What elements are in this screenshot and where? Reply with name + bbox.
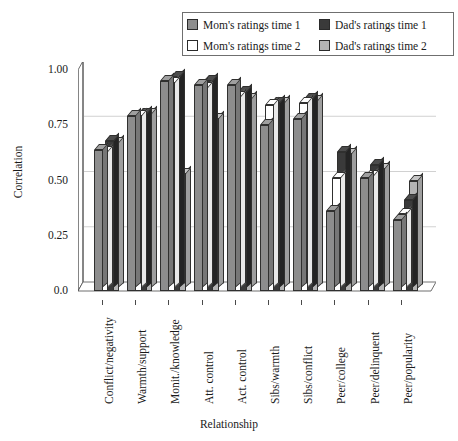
bar-side xyxy=(186,166,191,287)
bar-face xyxy=(227,85,236,291)
bar-face xyxy=(94,150,103,291)
bar xyxy=(127,116,136,291)
bar-side xyxy=(385,161,390,287)
bar-side xyxy=(313,91,318,287)
bar-side xyxy=(346,144,351,287)
bar-side xyxy=(407,205,412,287)
x-tick-mark xyxy=(135,300,136,305)
bar-side xyxy=(219,110,224,287)
bar-face xyxy=(127,116,136,291)
bar-side xyxy=(352,146,357,287)
bar-side xyxy=(213,73,218,287)
bar-side xyxy=(335,203,340,287)
x-tick-mark xyxy=(168,300,169,305)
x-tick-mark xyxy=(368,300,369,305)
bar xyxy=(360,178,369,291)
bar-side xyxy=(318,93,323,287)
bar-side xyxy=(302,110,307,287)
x-tick-label: Att. control xyxy=(203,351,215,404)
bar-side xyxy=(402,212,407,287)
bar-side xyxy=(247,84,252,287)
bar xyxy=(194,85,203,291)
bar-side xyxy=(136,108,141,287)
bar-side xyxy=(379,157,384,287)
bar-side xyxy=(269,117,274,287)
x-tick-mark xyxy=(334,300,335,305)
bar-side xyxy=(374,168,379,287)
bar-side xyxy=(208,79,213,287)
bar-face xyxy=(393,220,402,291)
x-tick-label: Sibs/warmth xyxy=(269,346,281,404)
x-tick-label: Sibs/conflict xyxy=(302,346,314,404)
bar-side xyxy=(152,106,157,287)
bar-face xyxy=(260,125,269,291)
bar-face xyxy=(293,119,302,291)
x-tick-label: Monit./knowledge xyxy=(169,319,181,404)
bar-side xyxy=(103,141,108,287)
bar-side xyxy=(236,77,241,287)
bar-side xyxy=(413,192,418,287)
x-tick-label: Act. control xyxy=(236,349,248,404)
bar-side xyxy=(169,73,174,287)
x-tick-label: Peer/college xyxy=(335,347,347,404)
x-tick-label: Warmth/support xyxy=(136,330,148,404)
bar-side xyxy=(108,144,113,287)
bar-face xyxy=(326,211,335,291)
bar-chart: Mom's ratings time 1 Dad's ratings time … xyxy=(0,0,458,441)
bar-side xyxy=(341,170,346,287)
bar xyxy=(260,125,269,291)
bar-side xyxy=(142,108,147,287)
x-tick-label: Conflict/negativity xyxy=(103,317,115,404)
bar-side xyxy=(252,91,257,287)
bar-side xyxy=(274,97,279,287)
x-tick-label: Peer/delinquent xyxy=(369,332,381,404)
bar-side xyxy=(285,95,290,287)
bar xyxy=(293,119,302,291)
bar-side xyxy=(119,135,124,287)
bar-side xyxy=(418,172,423,287)
bar-face xyxy=(160,81,169,291)
x-tick-label: Peer/popularity xyxy=(402,333,414,404)
bar xyxy=(326,211,335,291)
bar-side xyxy=(280,95,285,287)
bar xyxy=(227,85,236,291)
x-tick-mark xyxy=(202,300,203,305)
x-tick-mark xyxy=(401,300,402,305)
bar-side xyxy=(114,133,119,287)
bar xyxy=(94,150,103,291)
bar xyxy=(160,81,169,291)
bar-side xyxy=(241,88,246,287)
x-tick-mark xyxy=(235,300,236,305)
x-tick-mark xyxy=(301,300,302,305)
bar-side xyxy=(369,170,374,287)
x-tick-mark xyxy=(102,300,103,305)
bar-side xyxy=(147,106,152,287)
x-tick-mark xyxy=(268,300,269,305)
bar-side xyxy=(308,95,313,287)
bar-face xyxy=(360,178,369,291)
bar-side xyxy=(203,77,208,287)
bar-side xyxy=(175,75,180,287)
bar-face xyxy=(194,85,203,291)
bar xyxy=(393,220,402,291)
bar-side xyxy=(180,68,185,287)
